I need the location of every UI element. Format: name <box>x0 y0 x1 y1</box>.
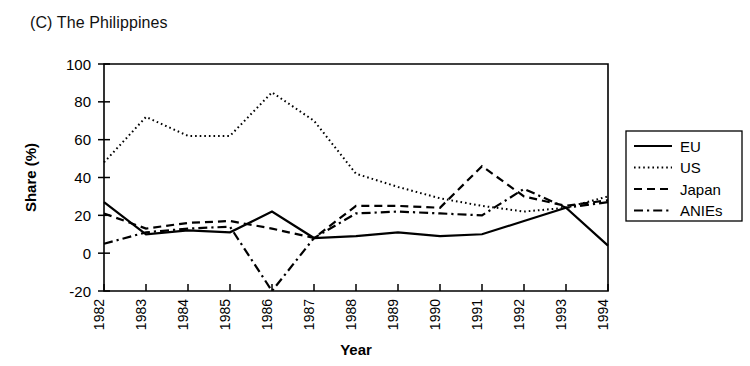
y-tick-label: 0 <box>83 245 91 262</box>
x-tick-label: 1990 <box>427 299 443 330</box>
x-tick-label: 1986 <box>259 299 275 330</box>
legend-label-us: US <box>680 159 701 176</box>
series-line-anies <box>104 189 608 291</box>
y-tick-label: 80 <box>74 93 91 110</box>
x-tick-label: 1992 <box>511 299 527 330</box>
y-tick-label: -20 <box>69 283 91 300</box>
legend-label-japan: Japan <box>680 181 721 198</box>
y-tick-label: 20 <box>74 207 91 224</box>
x-tick-label: 1987 <box>301 299 317 330</box>
y-tick-label: 60 <box>74 131 91 148</box>
chart-figure: (C) The Philippines -2002040608010019821… <box>0 0 750 366</box>
legend-label-anies: ANIEs <box>680 202 723 219</box>
legend-label-eu: EU <box>680 138 701 155</box>
y-tick-label: 100 <box>66 56 91 73</box>
series-line-japan <box>104 166 608 238</box>
x-tick-label: 1985 <box>217 299 233 330</box>
x-tick-label: 1982 <box>91 299 107 330</box>
x-tick-label: 1988 <box>343 299 359 330</box>
plot-frame <box>104 64 608 291</box>
x-axis-title: Year <box>340 341 372 358</box>
x-tick-label: 1994 <box>595 299 611 330</box>
y-tick-label: 40 <box>74 169 91 186</box>
x-tick-label: 1991 <box>469 299 485 330</box>
line-chart: -200204060801001982198319841985198619871… <box>0 0 750 366</box>
chart-series <box>104 92 608 291</box>
x-tick-label: 1993 <box>553 299 569 330</box>
chart-axes <box>98 64 608 291</box>
y-axis-title: Share (%) <box>22 143 39 212</box>
x-tick-label: 1984 <box>175 299 191 330</box>
chart-tick-labels: -200204060801001982198319841985198619871… <box>66 56 611 331</box>
chart-legend[interactable]: EUUSJapanANIEs <box>626 131 742 221</box>
x-tick-label: 1983 <box>133 299 149 330</box>
x-tick-label: 1989 <box>385 299 401 330</box>
